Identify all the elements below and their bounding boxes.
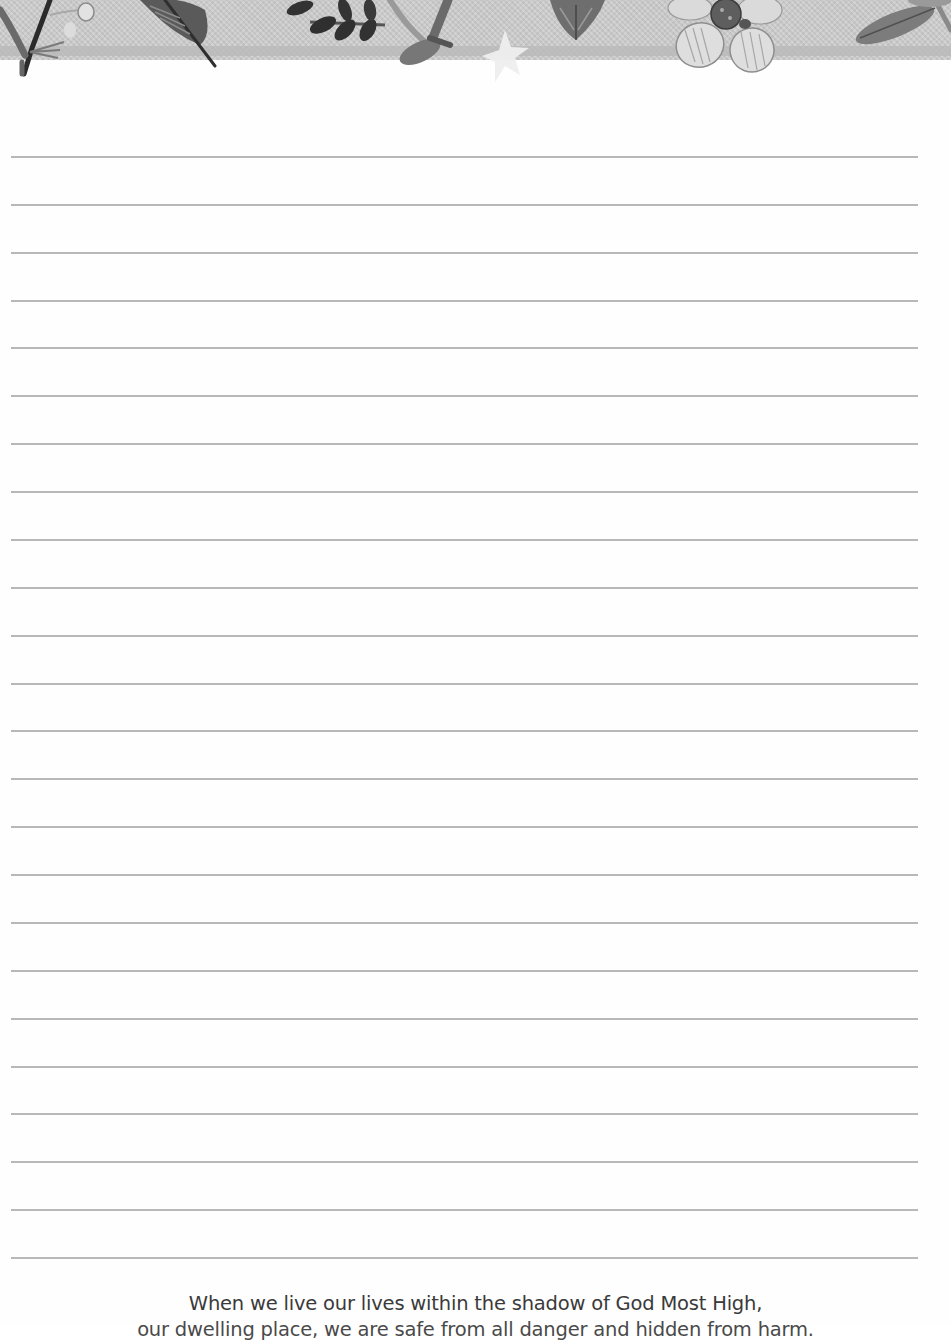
ruled-line [11,1066,918,1068]
ruled-line [11,300,918,302]
ruled-line [11,252,918,254]
ruled-line [11,635,918,637]
quote-line-2: our dwelling place, we are safe from all… [0,1317,951,1343]
ruled-line [11,491,918,493]
ruled-line [11,204,918,206]
ruled-line [11,970,918,972]
ruled-line [11,778,918,780]
ruled-line [11,443,918,445]
ruled-line [11,347,918,349]
footer-quote: When we live our lives within the shadow… [0,1291,951,1343]
ruled-line [11,826,918,828]
ruled-line [11,395,918,397]
ruled-line [11,922,918,924]
ruled-line [11,587,918,589]
ruled-line [11,874,918,876]
ruled-line [11,539,918,541]
quote-line-1: When we live our lives within the shadow… [189,1292,762,1315]
ruled-line [11,156,918,158]
ruled-line [11,1257,918,1259]
ruled-line [11,730,918,732]
ruled-line [11,1161,918,1163]
ruled-line [11,1113,918,1115]
ruled-line [11,683,918,685]
ruled-line [11,1209,918,1211]
ruled-line [11,1018,918,1020]
